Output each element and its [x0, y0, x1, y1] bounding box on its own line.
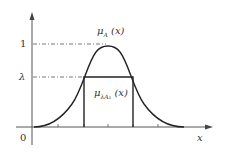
x-axis-label: x [197, 133, 203, 143]
x-axis-arrow-icon [205, 125, 213, 130]
mu-a-label: μA (x) [97, 26, 124, 40]
mu-lambda-arg: (x) [114, 87, 127, 98]
y-axis-arrow-icon [30, 12, 35, 20]
sub-text: λA [101, 93, 109, 100]
origin-label: 0 [20, 133, 26, 143]
y-tick-lambda: λ [19, 72, 25, 82]
mu-lambda-label: μλAλ (x) [94, 88, 128, 103]
mu-a-arg: (x) [111, 25, 124, 36]
mu-lambda-subscript: λAλ [101, 93, 112, 100]
subsub-text: λ [109, 95, 112, 100]
mu-a-curve [34, 46, 184, 127]
mu-a-subscript: A [104, 31, 108, 38]
membership-diagram [0, 0, 226, 157]
y-tick-1: 1 [20, 39, 26, 49]
